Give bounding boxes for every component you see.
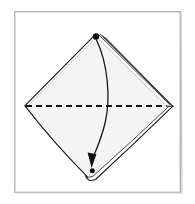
top-corner-dot [93,33,99,39]
bottom-corner-dot [90,168,95,173]
figure-root: Origami fold step diagram Square paper r… [0,0,195,204]
origami-diagram: Origami fold step diagram Square paper r… [0,0,195,204]
